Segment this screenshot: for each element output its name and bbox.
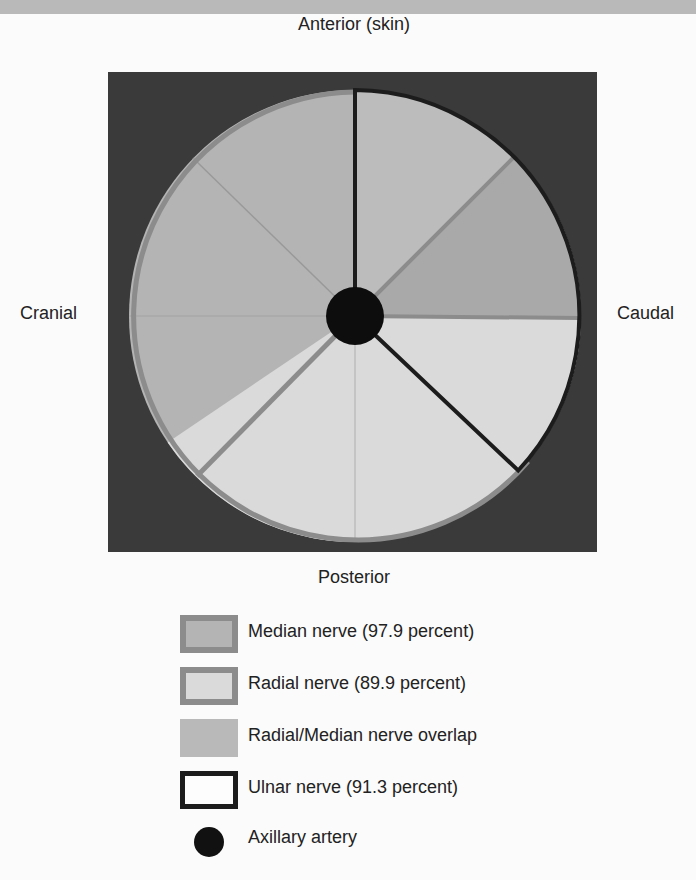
legend-item-ulnar: Ulnar nerve (91.3 percent) xyxy=(180,768,540,806)
legend-item-overlap: Radial/Median nerve overlap xyxy=(180,716,540,754)
legend-label: Median nerve (97.9 percent) xyxy=(248,621,474,642)
median-swatch-icon xyxy=(180,615,238,653)
overlap-swatch-icon xyxy=(180,719,238,757)
legend-item-median: Median nerve (97.9 percent) xyxy=(180,612,540,650)
legend-item-artery: Axillary artery xyxy=(180,818,540,856)
label-cranial: Cranial xyxy=(20,303,77,324)
legend-label: Axillary artery xyxy=(248,827,357,848)
ulnar-swatch-icon xyxy=(180,771,238,809)
axillary-artery xyxy=(326,287,384,345)
legend-label: Radial nerve (89.9 percent) xyxy=(248,673,466,694)
legend-item-radial: Radial nerve (89.9 percent) xyxy=(180,664,540,702)
label-posterior: Posterior xyxy=(0,567,696,588)
legend-label: Radial/Median nerve overlap xyxy=(248,725,477,746)
radial-swatch-icon xyxy=(180,667,238,705)
overlap-border xyxy=(355,316,579,318)
artery-dot-icon xyxy=(194,827,224,857)
legend-label: Ulnar nerve (91.3 percent) xyxy=(248,777,458,798)
label-caudal: Caudal xyxy=(617,303,674,324)
